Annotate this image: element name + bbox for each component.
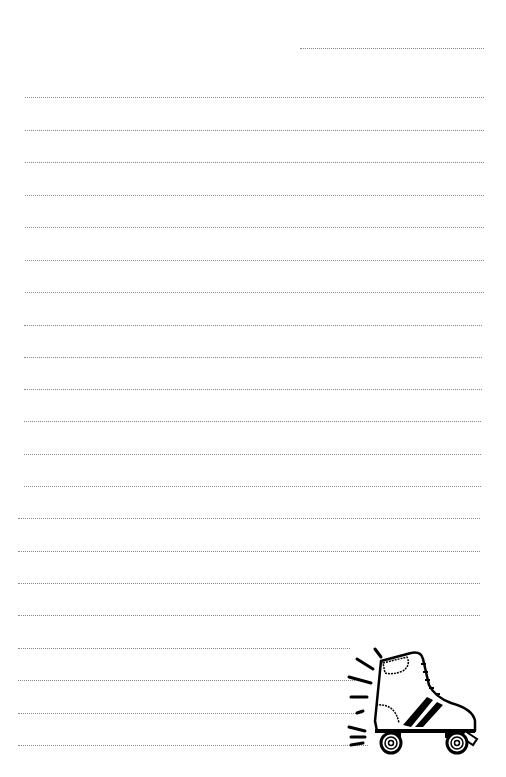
ruled-line (24, 421, 481, 422)
ruled-line (25, 130, 484, 131)
ruled-line (18, 648, 350, 649)
ruled-line (18, 680, 355, 681)
ruled-line (24, 325, 482, 326)
ruled-line (24, 486, 481, 487)
ruled-line (25, 97, 484, 98)
ruled-line (25, 162, 484, 163)
ruled-line (25, 292, 484, 293)
roller-skate-icon (345, 645, 480, 755)
ruled-line (25, 227, 484, 228)
header-line (300, 48, 484, 49)
ruled-line (24, 454, 481, 455)
ruled-line (25, 260, 484, 261)
ruled-line (18, 713, 362, 714)
ruled-line (18, 518, 480, 519)
ruled-line (25, 195, 484, 196)
ruled-line (24, 357, 482, 358)
lined-note-page (0, 0, 506, 777)
ruled-line (18, 551, 480, 552)
ruled-line (18, 583, 480, 584)
ruled-line (18, 615, 480, 616)
ruled-line (24, 389, 482, 390)
ruled-line (18, 745, 368, 746)
